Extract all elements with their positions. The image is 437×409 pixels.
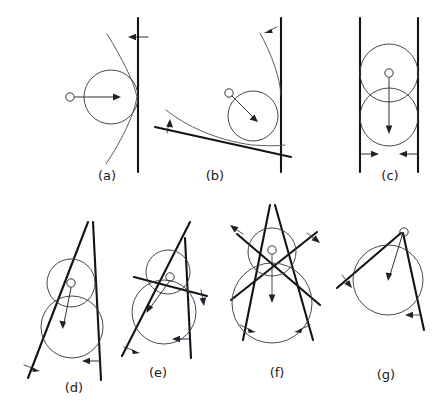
panel-e-normal-left-arrowhead — [132, 349, 140, 354]
panel-g-normal-right-arrowhead — [405, 312, 413, 318]
panel-f: (f) — [230, 205, 320, 380]
panel-b-radius-arrowhead — [250, 115, 259, 123]
panel-b-normal-arrowhead-vertical — [264, 29, 273, 33]
geometry-diagram: (a) (b) — [0, 0, 437, 409]
panel-c-center-marker — [385, 69, 393, 77]
panel-f-label: (f) — [270, 365, 285, 380]
panel-g: (g) — [337, 228, 424, 382]
panel-f-center-marker — [268, 246, 276, 254]
panel-c: (c) — [360, 18, 418, 183]
panel-e-normal-cross-arrowhead — [200, 297, 207, 306]
panel-a-radius-arrowhead — [113, 94, 121, 101]
panel-c-radius-arrowhead — [386, 126, 393, 135]
panel-g-radius-arrowhead — [386, 272, 393, 281]
panel-b-radius-arrow-shaft — [232, 96, 254, 118]
panel-f-normal-upleft-arrowhead — [230, 225, 239, 233]
panel-d-label: (d) — [65, 380, 83, 395]
panel-d-circle-lower — [41, 296, 103, 358]
panel-d-normal-right-arrowhead — [82, 358, 90, 364]
panel-e-label: (e) — [149, 365, 167, 380]
panel-b-offset-curve-lower — [166, 110, 285, 146]
panel-d-radius-arrowhead — [59, 321, 66, 329]
panel-d-radius-arrow-shaft — [64, 288, 71, 323]
panel-d: (d) — [24, 222, 103, 395]
panel-b-offset-curve-upper — [260, 33, 281, 95]
panel-c-label: (c) — [381, 168, 398, 183]
panel-c-normal-right-arrowhead — [399, 151, 407, 157]
panel-d-line-right — [93, 222, 101, 380]
panel-f-normal-lowright-arrowhead — [294, 329, 302, 333]
panel-e: (e) — [122, 222, 207, 380]
panel-e-center-marker — [166, 273, 174, 281]
panel-g-label: (g) — [377, 367, 395, 382]
panel-d-normal-left-arrowhead — [32, 367, 40, 372]
figure-canvas: (a) (b) — [0, 0, 437, 409]
panel-b: (b) — [155, 18, 291, 183]
panel-b-label: (b) — [206, 168, 224, 183]
panel-a-label: (a) — [98, 168, 116, 183]
panel-a-normal-arrowhead — [128, 34, 136, 40]
panel-a: (a) — [66, 18, 148, 183]
panel-b-normal-arrowhead-oblique — [166, 119, 173, 128]
panel-d-center-marker — [67, 279, 75, 287]
panel-e-line-right — [185, 238, 191, 358]
panel-g-line-left — [337, 233, 401, 288]
panel-f-line-diag-up — [231, 232, 317, 300]
panel-e-circle-upper — [146, 250, 190, 294]
panel-f-radius-arrowhead — [269, 295, 276, 304]
panel-f-normal-lowleft-arrowhead — [248, 329, 256, 333]
panel-b-line-oblique — [155, 127, 291, 157]
panel-c-normal-left-arrowhead — [371, 151, 379, 157]
panel-a-offset-curve — [106, 34, 137, 164]
panel-a-center-marker — [66, 93, 74, 101]
